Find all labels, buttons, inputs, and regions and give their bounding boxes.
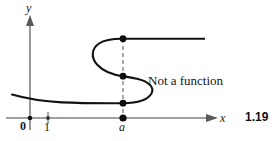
intersection-dot-bottom	[120, 100, 127, 107]
y-axis-label: y	[26, 2, 31, 14]
origin-dot	[28, 116, 33, 121]
x-tick-label-a: a	[119, 121, 125, 133]
intersection-dot-middle	[120, 73, 127, 80]
x-tick-label-one: 1	[44, 121, 50, 133]
figure-container: y x 0 1 a Not a function 1.19	[0, 0, 279, 141]
not-a-function-annotation: Not a function	[148, 74, 223, 87]
origin-label: 0	[20, 120, 26, 132]
intersection-dot-top	[120, 35, 127, 42]
x-axis-label: x	[220, 112, 225, 124]
y-axis-arrowhead	[26, 15, 34, 26]
x-axis-arrowhead	[206, 114, 218, 122]
figure-number-label: 1.19	[245, 111, 268, 123]
relation-curve	[12, 39, 152, 104]
graph-canvas	[0, 0, 279, 141]
